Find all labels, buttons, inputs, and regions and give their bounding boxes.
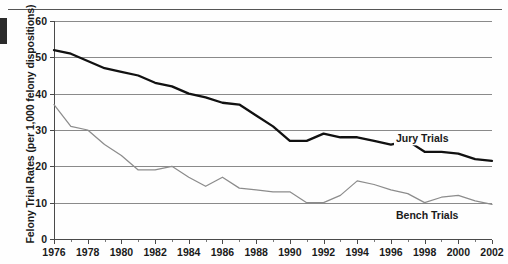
y-tick-label-0: 0: [41, 233, 47, 245]
x-tick-label-1992: 1992: [312, 246, 336, 258]
x-tick-label-1980: 1980: [110, 246, 134, 258]
x-tick-label-2002: 2002: [480, 246, 504, 258]
x-tick-label-1996: 1996: [379, 246, 403, 258]
series-inline-labels: Jury TrialsBench Trials: [394, 131, 461, 221]
gridlines: [54, 22, 492, 240]
x-tick-label-1998: 1998: [413, 246, 437, 258]
series-label-jury-trials: Jury Trials: [396, 132, 449, 144]
y-tick-label-40: 40: [35, 88, 47, 100]
data-series: [54, 50, 492, 204]
x-axis-ticks: 1976197819801982198419861988199019921994…: [42, 240, 504, 258]
chart-figure: Felony Trial Rates (per 1,000 felony dis…: [0, 0, 508, 264]
x-tick-label-1994: 1994: [346, 246, 370, 258]
y-tick-label-20: 20: [35, 160, 47, 172]
y-axis-ticks: 0102030405060: [35, 15, 54, 245]
x-tick-label-1978: 1978: [76, 246, 100, 258]
x-tick-label-2000: 2000: [447, 246, 471, 258]
series-label-bench-trials: Bench Trials: [396, 209, 459, 221]
x-tick-label-1976: 1976: [42, 246, 66, 258]
y-tick-label-30: 30: [35, 124, 47, 136]
y-tick-label-10: 10: [35, 197, 47, 209]
x-tick-label-1990: 1990: [278, 246, 302, 258]
series-line-bench-trials: [54, 105, 492, 205]
x-tick-label-1986: 1986: [211, 246, 235, 258]
x-tick-label-1988: 1988: [244, 246, 268, 258]
x-tick-label-1984: 1984: [177, 246, 201, 258]
line-chart-plot: 0102030405060 19761978198019821984198619…: [0, 0, 508, 264]
y-tick-label-60: 60: [35, 15, 47, 27]
x-tick-label-1982: 1982: [143, 246, 167, 258]
y-tick-label-50: 50: [35, 51, 47, 63]
